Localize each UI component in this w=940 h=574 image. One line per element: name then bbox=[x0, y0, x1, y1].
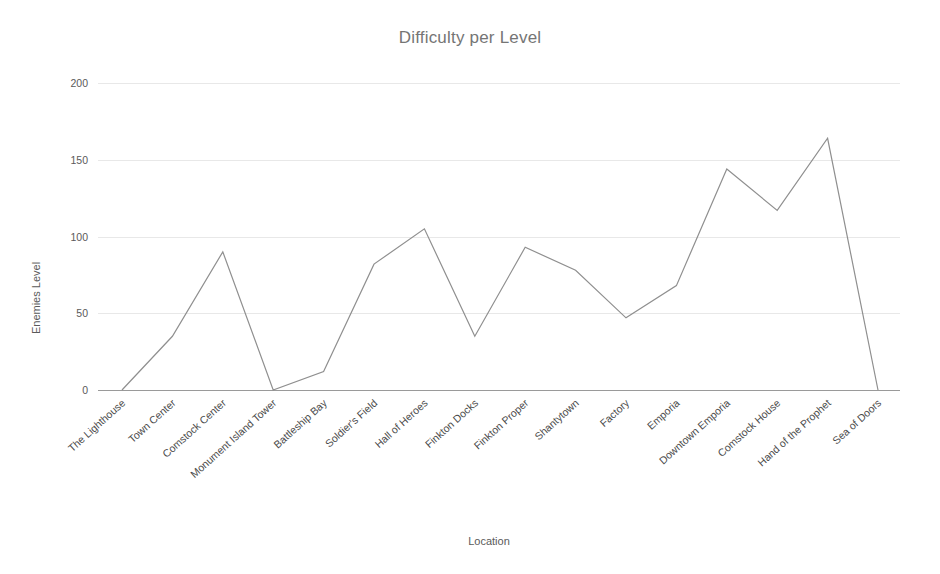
data-series bbox=[122, 138, 878, 390]
x-axis-tick-label: Soldier's Field bbox=[323, 396, 380, 449]
y-axis-tick-label: 0 bbox=[82, 384, 88, 396]
line-series-enemies-level bbox=[122, 138, 878, 390]
x-axis-tick-label: Battleship Bay bbox=[271, 396, 329, 450]
y-axis-tick-labels: 050100150200 bbox=[70, 77, 88, 396]
x-axis-tick-label: Shantytown bbox=[532, 396, 581, 442]
chart-plot-area: 050100150200 The LighthouseTown CenterCo… bbox=[0, 0, 940, 574]
y-axis-title: Enemies Level bbox=[30, 262, 42, 334]
x-axis-tick-label: Monument Island Tower bbox=[188, 396, 279, 480]
x-axis-tick-label: Factory bbox=[597, 396, 632, 429]
x-axis-tick-label: Finkton Proper bbox=[471, 396, 531, 451]
y-axis-tick-label: 100 bbox=[70, 231, 88, 243]
x-axis-title: Location bbox=[468, 535, 510, 547]
x-axis-tick-label: Emporia bbox=[645, 396, 682, 431]
y-axis-tick-label: 150 bbox=[70, 154, 88, 166]
x-axis-tick-label: Hall of Heroes bbox=[372, 397, 429, 450]
x-axis-tick-label: Town Center bbox=[126, 396, 178, 445]
x-axis-tick-label: The Lighthouse bbox=[66, 396, 128, 453]
x-axis-tick-label: Sea of Doors bbox=[830, 397, 884, 447]
chart-container: Difficulty per Level 050100150200 The Li… bbox=[0, 0, 940, 574]
x-axis-tick-labels: The LighthouseTown CenterComstock Center… bbox=[66, 396, 884, 480]
y-axis-tick-label: 200 bbox=[70, 77, 88, 89]
gridlines bbox=[98, 84, 900, 391]
y-axis-tick-label: 50 bbox=[76, 307, 88, 319]
